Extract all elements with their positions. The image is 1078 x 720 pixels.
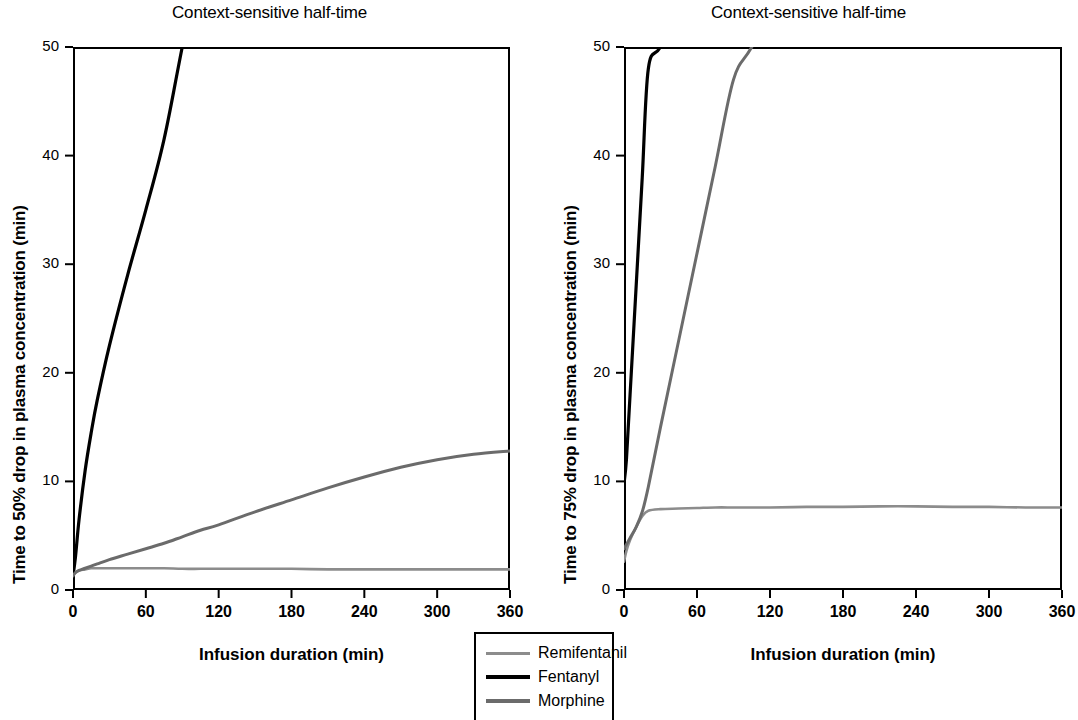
legend-swatch-morphine-icon (486, 699, 530, 703)
series-line-morphine-left (73, 451, 510, 576)
x-axis-tick-right-2: 120 (745, 603, 795, 621)
y-axis-tick-right-4: 40 (576, 148, 610, 162)
y-axis-tick-right-3: 30 (576, 256, 610, 270)
y-axis-tick-right-0: 0 (576, 582, 610, 596)
x-axis-tick-left-2: 120 (194, 603, 244, 621)
legend-item-morphine[interactable]: Morphine (486, 689, 612, 713)
chart-legend: RemifentanilFentanylMorphine (474, 632, 614, 720)
x-axis-tick-left-1: 60 (121, 603, 171, 621)
y-axis-tick-left-2: 20 (25, 365, 59, 379)
y-axis-tick-left-5: 50 (25, 39, 59, 53)
x-axis-label-left: Infusion duration (min) (73, 645, 510, 665)
x-axis-tick-left-0: 0 (48, 603, 98, 621)
chart-panel-left: Context-sensitive half-time Time to 50% … (0, 0, 539, 660)
legend-swatch-fentanyl-icon (486, 675, 530, 679)
x-axis-tick-right-6: 360 (1037, 603, 1078, 621)
y-axis-tick-left-0: 0 (25, 582, 59, 596)
chart-panel-right: Context-sensitive half-time Time to 75% … (539, 0, 1078, 660)
legend-label: Remifentanil (538, 645, 627, 661)
figure-container: Context-sensitive half-time Time to 50% … (0, 0, 1078, 720)
series-line-fentanyl-left (73, 0, 219, 576)
series-line-remifentanil-right (624, 506, 1062, 561)
x-axis-tick-right-1: 60 (672, 603, 722, 621)
series-line-remifentanil-left (73, 568, 510, 576)
y-axis-tick-left-4: 40 (25, 148, 59, 162)
x-axis-label-right: Infusion duration (min) (624, 645, 1062, 665)
x-axis-tick-right-4: 240 (891, 603, 941, 621)
x-axis-tick-right-0: 0 (599, 603, 649, 621)
plot-canvas-left (0, 0, 539, 660)
x-axis-tick-right-5: 300 (964, 603, 1014, 621)
legend-label: Fentanyl (538, 669, 599, 685)
x-axis-tick-left-3: 180 (267, 603, 317, 621)
series-line-fentanyl-right (624, 4, 685, 484)
legend-swatch-remifentanil-icon (486, 652, 530, 655)
x-axis-tick-left-6: 360 (485, 603, 535, 621)
y-axis-tick-right-2: 20 (576, 365, 610, 379)
y-axis-tick-right-1: 10 (576, 473, 610, 487)
legend-item-remifentanil[interactable]: Remifentanil (486, 641, 612, 665)
plot-canvas-right (539, 0, 1078, 660)
x-axis-tick-left-5: 300 (412, 603, 462, 621)
y-axis-tick-right-5: 50 (576, 39, 610, 53)
y-axis-tick-left-3: 30 (25, 256, 59, 270)
x-axis-tick-left-4: 240 (339, 603, 389, 621)
legend-label: Morphine (538, 693, 605, 709)
y-axis-tick-left-1: 10 (25, 473, 59, 487)
series-line-morphine-right (624, 0, 788, 549)
x-axis-tick-right-3: 180 (818, 603, 868, 621)
legend-item-fentanyl[interactable]: Fentanyl (486, 665, 612, 689)
